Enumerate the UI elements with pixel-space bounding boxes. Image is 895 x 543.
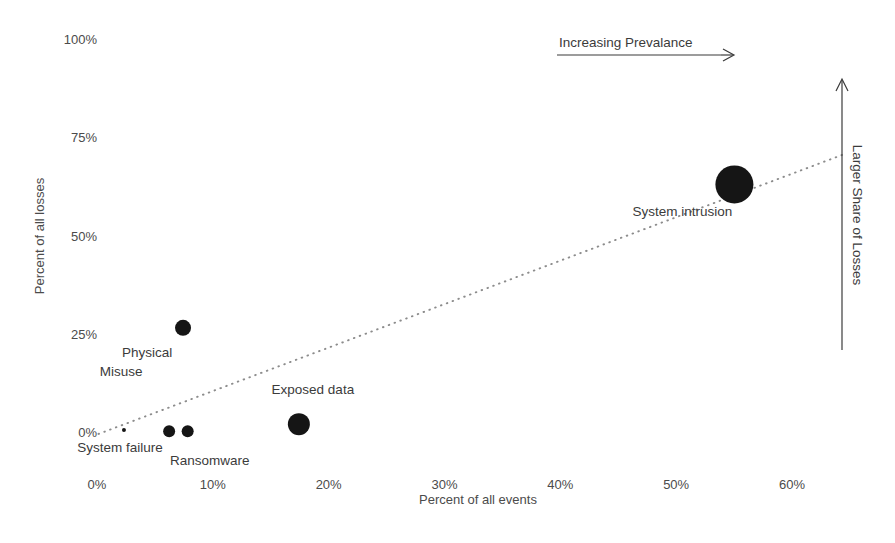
x-tick-label: 0%: [88, 477, 107, 492]
x-axis-title: Percent of all events: [419, 492, 537, 507]
label-ransomware: Ransomware: [170, 453, 250, 468]
bubble-physical[interactable]: [175, 320, 191, 336]
bubble-system-failure[interactable]: [122, 428, 126, 432]
bubble-chart: 0%25%50%75%100% 0%10%20%30%40%50%60% Per…: [0, 0, 895, 543]
bubble-system-intrusion[interactable]: [715, 165, 753, 203]
larger-share-of-losses-label: Larger Share of Losses: [850, 145, 865, 286]
label-system-intrusion: System intrusion: [633, 204, 733, 219]
bubble-ransomware[interactable]: [182, 425, 194, 437]
larger-share-of-losses-annotation: Larger Share of Losses: [836, 79, 865, 350]
y-tick-label: 75%: [71, 130, 97, 145]
x-tick-label: 60%: [779, 477, 805, 492]
x-tick-label: 20%: [316, 477, 342, 492]
x-tick-label: 30%: [431, 477, 457, 492]
y-tick-label: 100%: [64, 32, 98, 47]
data-point-labels: System failurePhysicalMisuseRansomwareEx…: [77, 204, 732, 468]
x-tick-label: 50%: [663, 477, 689, 492]
bubble-misuse[interactable]: [163, 425, 175, 437]
increasing-prevalance-annotation: Increasing Prevalance: [557, 35, 734, 61]
label-exposed-data: Exposed data: [272, 382, 355, 397]
y-tick-label: 50%: [71, 229, 97, 244]
label-physical: Physical: [122, 345, 172, 360]
increasing-prevalance-label: Increasing Prevalance: [559, 35, 693, 50]
x-tick-label: 10%: [200, 477, 226, 492]
label-misuse: Misuse: [100, 364, 143, 379]
y-tick-label: 0%: [78, 425, 97, 440]
y-tick-label: 25%: [71, 327, 97, 342]
bubble-exposed-data[interactable]: [288, 413, 310, 435]
x-tick-label: 40%: [547, 477, 573, 492]
chart-canvas: 0%25%50%75%100% 0%10%20%30%40%50%60% Per…: [0, 0, 895, 543]
y-axis-ticks: 0%25%50%75%100%: [64, 32, 98, 440]
y-axis-title: Percent of all losses: [32, 177, 47, 294]
label-system-failure: System failure: [77, 440, 163, 455]
x-axis-ticks: 0%10%20%30%40%50%60%: [88, 477, 806, 492]
